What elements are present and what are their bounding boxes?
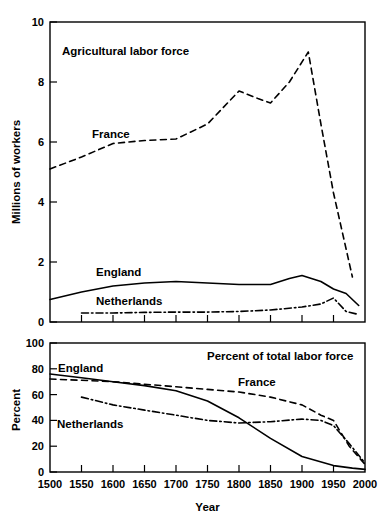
bottom-panel-title: Percent of total labor force [207, 350, 353, 362]
top-ytick-4: 4 [38, 196, 45, 208]
xtick-1650: 1650 [132, 478, 156, 490]
top-panel-y-axis-title: Millions of workers [10, 120, 22, 224]
top-ytick-6: 6 [38, 136, 44, 148]
top-england-label: England [96, 266, 141, 278]
bottom-ytick-20: 20 [32, 440, 44, 452]
bottom-ytick-40: 40 [32, 414, 44, 426]
top-france-label: France [92, 128, 130, 140]
top-panel-title: Agricultural labor force [62, 45, 189, 57]
top-netherlands-label: Netherlands [96, 295, 162, 307]
x-axis-title: Year [195, 501, 220, 513]
xtick-1950: 1950 [321, 478, 345, 490]
two-panel-line-chart: 10 8 6 4 2 0 Millions of workers Agricu [0, 0, 387, 525]
xtick-2000: 2000 [353, 478, 377, 490]
bottom-netherlands-label: Netherlands [57, 418, 123, 430]
bottom-ytick-0: 0 [38, 466, 44, 478]
xtick-1600: 1600 [101, 478, 125, 490]
bottom-ytick-60: 60 [32, 389, 44, 401]
bottom-ytick-100: 100 [26, 337, 44, 349]
xtick-1500: 1500 [38, 478, 62, 490]
top-ytick-8: 8 [38, 76, 44, 88]
xtick-1850: 1850 [258, 478, 282, 490]
bottom-panel-y-ticks [50, 343, 57, 472]
top-panel-y-ticks [50, 22, 57, 322]
top-panel-x-ticks [82, 315, 334, 322]
top-france-curve [50, 52, 352, 277]
xtick-1800: 1800 [227, 478, 251, 490]
top-ytick-2: 2 [38, 256, 44, 268]
figure-container: 10 8 6 4 2 0 Millions of workers Agricu [0, 0, 387, 525]
bottom-netherlands-curve [82, 397, 366, 463]
bottom-france-label: France [238, 376, 276, 388]
xtick-1900: 1900 [290, 478, 314, 490]
xtick-1750: 1750 [195, 478, 219, 490]
bottom-panel-y-axis-title: Percent [10, 389, 22, 431]
bottom-ytick-80: 80 [32, 363, 44, 375]
top-panel: 10 8 6 4 2 0 Millions of workers Agricu [10, 16, 365, 328]
top-ytick-10: 10 [32, 16, 44, 28]
bottom-england-label: England [58, 362, 103, 374]
top-ytick-0: 0 [38, 316, 44, 328]
xtick-1550: 1550 [69, 478, 93, 490]
bottom-panel: 100 80 60 40 20 0 1500 1550 1600 16 [10, 337, 377, 513]
xtick-1700: 1700 [164, 478, 188, 490]
bottom-panel-x-ticks [82, 465, 334, 472]
